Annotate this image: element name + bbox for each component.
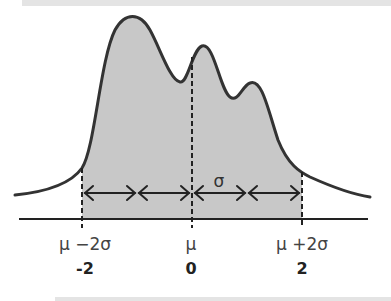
mean-label: μ <box>186 234 197 254</box>
distribution-diagram: σ μ −2σ μ μ +2σ -2 0 2 <box>0 0 391 301</box>
minus-2-value: -2 <box>76 259 94 278</box>
plus-2-value: 2 <box>296 259 307 278</box>
plus-2sigma-label: μ +2σ <box>276 234 328 254</box>
zero-value: 0 <box>185 259 196 278</box>
minus-2sigma-label: μ −2σ <box>59 234 111 254</box>
sigma-label: σ <box>214 171 225 191</box>
